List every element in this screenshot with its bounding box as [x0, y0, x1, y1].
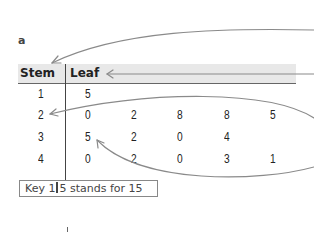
arrow-to-leaf-5-icon	[97, 140, 314, 177]
axis-tick	[67, 227, 68, 232]
arrow-to-stem-icon	[52, 29, 314, 63]
arrow-to-stem-2-icon	[50, 96, 314, 118]
annotation-arrows	[0, 0, 314, 232]
